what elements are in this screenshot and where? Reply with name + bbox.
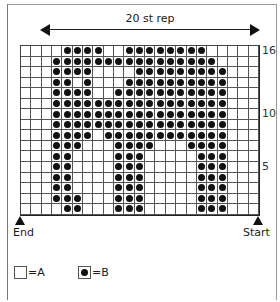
chart-cell	[21, 78, 31, 89]
chart-cell	[197, 109, 207, 120]
chart-cell	[52, 88, 62, 99]
chart-cell	[135, 183, 145, 194]
chart-cell	[155, 183, 165, 194]
chart-cell	[197, 88, 207, 99]
chart-cell	[197, 120, 207, 131]
chart-cell	[42, 88, 52, 99]
chart-cell	[135, 109, 145, 120]
chart-cell	[62, 173, 72, 184]
chart-cell	[73, 141, 83, 152]
chart-cell	[145, 151, 155, 162]
chart-cell	[187, 99, 197, 110]
end-triangle-icon	[15, 216, 25, 225]
chart-cell	[52, 151, 62, 162]
chart-cell	[166, 162, 176, 173]
chart-cell	[176, 78, 186, 89]
chart-cell	[104, 46, 114, 57]
chart-cell	[83, 99, 93, 110]
chart-cell	[249, 57, 259, 68]
chart-cell	[31, 78, 41, 89]
chart-cell	[155, 57, 165, 68]
chart-cell	[114, 183, 124, 194]
chart-cell	[114, 46, 124, 57]
chart-cell	[21, 88, 31, 99]
chart-cell	[31, 109, 41, 120]
chart-cell	[207, 130, 217, 141]
chart-cell	[187, 173, 197, 184]
chart-cell	[52, 78, 62, 89]
chart-cell	[249, 183, 259, 194]
chart-cell	[114, 194, 124, 205]
chart-cell	[187, 57, 197, 68]
chart-cell	[249, 99, 259, 110]
chart-cell	[166, 151, 176, 162]
row-label-5: 5	[262, 160, 269, 173]
chart-cell	[135, 141, 145, 152]
arrow-right-icon	[250, 24, 260, 36]
chart-cell	[21, 120, 31, 131]
chart-cell	[124, 194, 134, 205]
chart-cell	[104, 109, 114, 120]
chart-cell	[52, 194, 62, 205]
chart-cell	[31, 120, 41, 131]
chart-cell	[21, 194, 31, 205]
chart-cell	[207, 141, 217, 152]
chart-cell	[104, 67, 114, 78]
chart-cell	[21, 109, 31, 120]
chart-cell	[42, 173, 52, 184]
chart-cell	[73, 88, 83, 99]
chart-cell	[114, 120, 124, 131]
chart-cell	[218, 141, 228, 152]
chart-cell	[166, 46, 176, 57]
chart-cell	[155, 194, 165, 205]
chart-cell	[197, 99, 207, 110]
chart-cell	[73, 57, 83, 68]
chart-cell	[21, 130, 31, 141]
chart-cell	[114, 67, 124, 78]
chart-cell	[218, 67, 228, 78]
chart-cell	[228, 88, 238, 99]
chart-cell	[124, 88, 134, 99]
chart-cell	[155, 162, 165, 173]
chart-cell	[62, 88, 72, 99]
chart-cell	[166, 194, 176, 205]
chart-cell	[42, 162, 52, 173]
chart-cell	[42, 109, 52, 120]
chart-cell	[104, 204, 114, 215]
chart-cell	[124, 183, 134, 194]
chart-cell	[176, 194, 186, 205]
chart-cell	[176, 162, 186, 173]
end-label: End	[13, 226, 34, 239]
chart-cell	[228, 46, 238, 57]
chart-cell	[52, 46, 62, 57]
chart-cell	[124, 151, 134, 162]
chart-cell	[218, 109, 228, 120]
chart-cell	[207, 183, 217, 194]
chart-cell	[42, 194, 52, 205]
chart-cell	[145, 130, 155, 141]
chart-cell	[228, 57, 238, 68]
chart-cell	[31, 57, 41, 68]
chart-cell	[228, 120, 238, 131]
chart-cell	[228, 194, 238, 205]
chart-cell	[187, 46, 197, 57]
chart-cell	[62, 162, 72, 173]
chart-cell	[207, 67, 217, 78]
chart-cell	[207, 194, 217, 205]
chart-cell	[62, 194, 72, 205]
chart-cell	[62, 151, 72, 162]
chart-cell	[83, 67, 93, 78]
chart-cell	[176, 130, 186, 141]
chart-cell	[249, 162, 259, 173]
chart-cell	[104, 173, 114, 184]
chart-cell	[124, 204, 134, 215]
chart-cell	[104, 162, 114, 173]
chart-cell	[145, 99, 155, 110]
chart-cell	[104, 151, 114, 162]
chart-cell	[31, 173, 41, 184]
chart-cell	[176, 183, 186, 194]
chart-cell	[135, 67, 145, 78]
chart-cell	[93, 99, 103, 110]
chart-cell	[42, 78, 52, 89]
chart-cell	[135, 194, 145, 205]
